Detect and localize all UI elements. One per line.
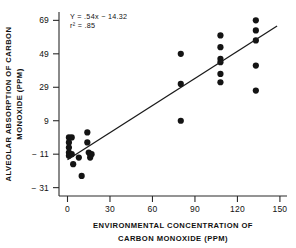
- x-tick-label: 120: [230, 204, 245, 214]
- data-point: [253, 27, 259, 33]
- y-tick-label: 9: [44, 116, 49, 126]
- data-point: [178, 51, 184, 57]
- data-point: [178, 118, 184, 124]
- data-point: [217, 79, 223, 85]
- data-points: [66, 17, 259, 179]
- regression-line: [67, 26, 277, 160]
- x-axis-label-line1: ENVIRONMENTAL CONCENTRATION OF: [93, 221, 253, 230]
- axes: [59, 12, 287, 196]
- data-point: [217, 71, 223, 77]
- y-tick-label: 69: [39, 15, 49, 25]
- chart-canvas: − 31− 119294969 0306090120150 Y = .54x −…: [0, 0, 296, 248]
- data-point: [253, 88, 259, 94]
- data-point: [253, 62, 259, 68]
- y-axis-ticks: − 31− 119294969: [31, 15, 59, 192]
- y-tick-label: − 31: [31, 183, 49, 193]
- y-axis-label-line1: ALVEOLAR ABSORPTION OF CARBON: [4, 27, 13, 182]
- data-point: [84, 139, 90, 145]
- data-point: [217, 44, 223, 50]
- data-point: [79, 173, 85, 179]
- y-tick-label: 29: [39, 82, 49, 92]
- equation-annotation: Y = .54x − 14.32: [70, 12, 127, 21]
- x-tick-label: 90: [190, 204, 200, 214]
- x-tick-label: 30: [105, 204, 115, 214]
- y-tick-label: 49: [39, 49, 49, 59]
- data-point: [69, 134, 75, 140]
- scatter-plot-figure: − 31− 119294969 0306090120150 Y = .54x −…: [0, 0, 296, 248]
- x-tick-label: 60: [148, 204, 158, 214]
- data-point: [84, 129, 90, 135]
- x-tick-label: 150: [273, 204, 288, 214]
- x-axis-ticks: 0306090120150: [65, 196, 287, 214]
- y-axis-label-line2: MONOXIDE (PPM): [15, 68, 24, 139]
- x-axis-label-line2: CARBON MONOXIDE (PPM): [118, 234, 228, 243]
- data-point: [76, 154, 82, 160]
- r-squared-annotation: r² = .85: [70, 21, 95, 30]
- data-point: [70, 161, 76, 167]
- y-tick-label: − 11: [32, 149, 49, 159]
- data-point: [253, 17, 259, 23]
- x-tick-label: 0: [65, 204, 70, 214]
- data-point: [88, 151, 94, 157]
- data-point: [217, 32, 223, 38]
